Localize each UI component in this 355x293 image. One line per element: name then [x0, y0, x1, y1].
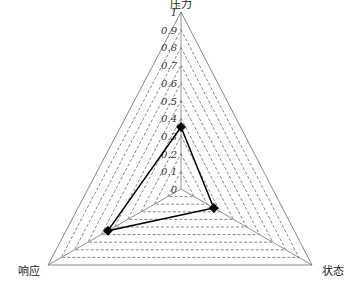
radar-grid [48, 12, 312, 265]
axis-label: 状态 [322, 264, 344, 278]
tick-label: 0.8 [161, 42, 177, 53]
axis-label: 压力 [170, 0, 192, 11]
series-line [108, 127, 214, 231]
radar-chart: 00.10.20.30.40.50.60.70.80.91 压力状态响应 [0, 0, 355, 293]
grid-ring [61, 30, 299, 258]
tick-label: 0.1 [161, 166, 177, 177]
tick-label: 0 [171, 184, 178, 195]
tick-label: 0.4 [161, 113, 177, 124]
tick-label: 0.6 [161, 78, 178, 89]
tick-label: 0.9 [161, 25, 178, 36]
tick-label: 0.2 [161, 149, 177, 160]
tick-label: 0.5 [161, 96, 177, 107]
tick-label: 0.7 [161, 60, 178, 71]
axis-label: 响应 [18, 264, 40, 278]
diamond-marker-icon [176, 122, 186, 132]
tick-labels: 00.10.20.30.40.50.60.70.80.91 [161, 7, 178, 195]
